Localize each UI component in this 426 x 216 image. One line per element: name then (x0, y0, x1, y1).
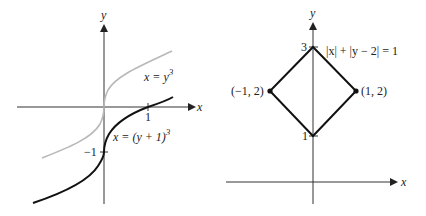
right-y-tick-label-3: 3 (301, 40, 307, 54)
left-x-axis-label: x (196, 100, 203, 114)
point-1-2 (353, 88, 358, 93)
left-y-axis-label: y (100, 8, 107, 22)
curve1-label: x = y3 (143, 67, 174, 84)
left-x-tick-label-1: 1 (145, 110, 151, 124)
point-neg1-2 (267, 88, 272, 93)
right-x-axis-label: x (400, 175, 407, 189)
left-point-label: (−1, 2) (231, 84, 264, 98)
right-y-axis-label: y (309, 6, 316, 20)
left-y-tick-label-neg1: −1 (84, 145, 97, 159)
equation-label: |x| + |y − 2| = 1 (326, 44, 398, 58)
figure: x y 1 −1 x = y3 x = (y + 1)3 x y 3 1 (0, 0, 426, 216)
right-point-label: (1, 2) (361, 84, 387, 98)
right-chart: x y 3 1 |x| + |y − 2| = 1 (−1, 2) (1, 2) (226, 6, 407, 204)
left-chart: x y 1 −1 x = y3 x = (y + 1)3 (17, 8, 203, 204)
curve2-label: x = (y + 1)3 (112, 127, 171, 144)
